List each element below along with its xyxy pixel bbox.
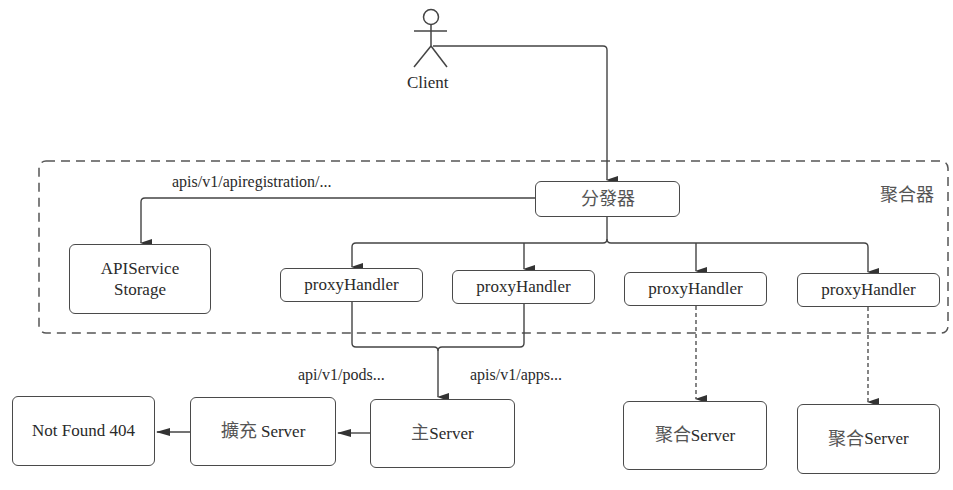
proxy-handler-1: proxyHandler	[280, 268, 423, 302]
proxy-handler-label: proxyHandler	[476, 276, 570, 297]
proxy-handler-4: proxyHandler	[797, 273, 940, 307]
not-found-box: Not Found 404	[12, 396, 155, 466]
edge-dispatcher-apiservice	[141, 198, 535, 243]
edge-label-pods: api/v1/pods...	[298, 366, 385, 384]
edge-label-apiregistration: apis/v1/apiregistration/...	[172, 173, 332, 191]
edge-client-dispatcher	[433, 46, 607, 180]
aggregated-server-name: Server	[691, 425, 735, 446]
client-actor-icon	[414, 10, 447, 68]
main-server-name: Server	[429, 423, 473, 444]
aggregated-server-2: 聚合Server	[797, 404, 940, 474]
extension-server-name: Server	[257, 421, 306, 442]
apiservice-storage-line1: APIService	[101, 258, 179, 279]
aggregator-label: 聚合器	[880, 180, 934, 206]
aggregated-server-1: 聚合Server	[623, 401, 767, 470]
main-server-box: 主Server	[370, 399, 515, 468]
main-server-prefix: 主	[411, 422, 429, 445]
proxy-handler-label: proxyHandler	[304, 274, 398, 295]
aggregated-server-name: Server	[864, 428, 908, 449]
aggregated-server-prefix: 聚合	[655, 424, 691, 447]
apiservice-storage-box: APIService Storage	[69, 244, 211, 314]
proxy-handler-3: proxyHandler	[624, 272, 767, 306]
edge-label-apps: apis/v1/apps...	[470, 366, 562, 384]
not-found-label: Not Found 404	[32, 420, 135, 441]
apiservice-storage-line2: Storage	[114, 279, 166, 300]
proxy-handler-label: proxyHandler	[821, 279, 915, 300]
proxy-handler-label: proxyHandler	[648, 278, 742, 299]
extension-server-box: 擴充 Server	[190, 397, 336, 466]
extension-server-prefix: 擴充	[221, 420, 257, 443]
dispatcher-box: 分發器	[535, 181, 680, 217]
proxy-handler-2: proxyHandler	[452, 270, 595, 304]
client-label: Client	[407, 73, 449, 93]
aggregated-server-prefix: 聚合	[828, 428, 864, 451]
dispatcher-label: 分發器	[581, 188, 635, 211]
